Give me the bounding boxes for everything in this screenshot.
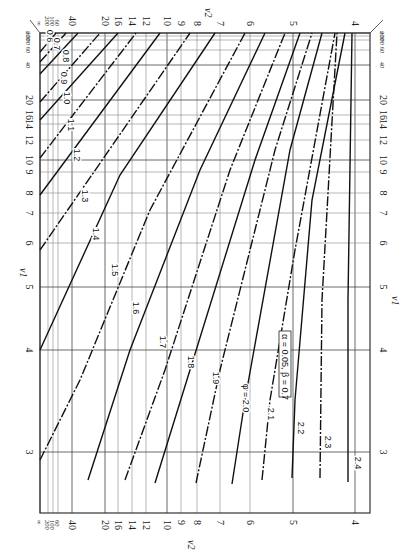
nu2-tick-label-bottom: 5	[288, 520, 299, 525]
curve-label: 1.6	[131, 302, 141, 315]
nu2-tick-label-top: 5	[288, 21, 299, 26]
nu1-tick-label-right: 9	[378, 170, 389, 175]
nu2-tick-label-bottom: ∞	[36, 520, 43, 525]
curve-label: 0.7	[52, 38, 62, 51]
nu1-tick-label-right: 5	[378, 285, 389, 290]
curve-label: φ = 2.0	[241, 384, 251, 413]
power-chart: 0.60.70.80.91.01.11.21.31.41.51.61.71.81…	[0, 0, 405, 558]
legend-annotation: α = 0.05, β = 0.7	[279, 331, 291, 400]
nu2-tick-label-top: 12	[141, 16, 152, 26]
nu2-tick-label-bottom: 10	[162, 520, 173, 530]
nu1-tick-label-left: 60	[25, 47, 32, 54]
nu2-tick-label-bottom: 60	[54, 520, 61, 527]
phi-curve	[155, 33, 300, 483]
nu1-tick-label-right: 14	[378, 119, 389, 129]
nu2-tick-label-top: 20	[100, 16, 111, 26]
nu1-tick-label-left: 100	[25, 35, 32, 45]
nu2-tick-label-bottom: 16	[113, 520, 124, 530]
nu1-tick-label-left: 10	[24, 155, 35, 165]
nu2-tick-label-top: 4	[350, 21, 361, 26]
nu1-tick-label-left: 12	[24, 135, 35, 145]
nu2-tick-label-bottom: 12	[141, 520, 152, 530]
nu2-tick-label-bottom: 8	[192, 520, 203, 525]
phi-curve	[40, 33, 136, 158]
nu2-tick-label-top: 10	[162, 16, 173, 26]
curve-label: 2.2	[296, 422, 306, 435]
nu2-tick-label-top: 6	[245, 21, 256, 26]
nu2-tick-label-top: 14	[127, 16, 138, 26]
nu1-axis-title-right: ν1	[390, 296, 401, 305]
nu1-tick-label-left: 8	[24, 191, 35, 196]
nu1-tick-label-left: 6	[24, 241, 35, 246]
curve-label: 2.4	[353, 457, 363, 470]
nu1-tick-label-left: 7	[24, 211, 35, 216]
nu1-tick-label-left: 3	[24, 450, 35, 455]
curve-label: 0.8	[61, 50, 71, 63]
nu1-tick-label-right: 10	[378, 155, 389, 165]
nu1-tick-label-right: 7	[378, 211, 389, 216]
curve-label: 1.9	[211, 372, 221, 385]
curve-label: 1.0	[62, 92, 72, 105]
curve-label: 1.2	[72, 149, 82, 162]
phi-curve	[232, 33, 322, 484]
nu2-tick-label-bottom: 4	[350, 520, 361, 525]
nu2-tick-label-top: ∞	[36, 21, 43, 26]
curve-label: 1.8	[186, 356, 196, 369]
nu1-tick-label-right: 12	[378, 135, 389, 145]
curve-label: 1.5	[110, 264, 120, 277]
nu2-axis-title-top: ν2	[203, 8, 214, 17]
curve-label: 2.3	[323, 436, 333, 449]
nu1-tick-label-left: 9	[24, 170, 35, 175]
nu2-tick-label-bottom: 20	[100, 520, 111, 530]
nu1-tick-label-left: 40	[25, 62, 32, 69]
nu1-tick-label-left: 20	[24, 95, 35, 105]
nu2-tick-label-bottom: 6	[245, 520, 256, 525]
nu2-tick-label-bottom: 40	[67, 520, 78, 530]
nu1-tick-label-right: 40	[379, 62, 386, 69]
curve-label: 1.1	[66, 119, 76, 132]
curve-label: 1.3	[80, 190, 90, 203]
nu1-tick-label-left: 4	[24, 348, 35, 353]
nu2-axis-title-bottom: ν2	[186, 540, 197, 549]
legend-text: α = 0.05, β = 0.7	[280, 334, 290, 400]
nu2-tick-label-bottom: 7	[215, 520, 226, 525]
nu1-axis-title-left: ν1	[18, 268, 29, 277]
nu2-tick-label-bottom: 14	[127, 520, 138, 530]
nu2-tick-label-top: 8	[192, 21, 203, 26]
curve-label: 1.4	[91, 228, 101, 241]
nu2-tick-label-top: 40	[67, 16, 78, 26]
nu1-tick-label-right: 3	[378, 450, 389, 455]
nu2-tick-label-top: 9	[176, 21, 187, 26]
nu2-tick-label-top: 16	[113, 16, 124, 26]
curve-label: 1.7	[158, 336, 168, 349]
nu2-tick-label-top: 60	[54, 20, 61, 27]
nu2-tick-label-bottom: 9	[176, 520, 187, 525]
nu1-tick-label-right: 8	[378, 191, 389, 196]
curve-label: 2.1	[266, 408, 276, 421]
nu1-tick-label-right: 100	[379, 35, 386, 45]
nu1-tick-label-right: 20	[378, 95, 389, 105]
curve-label: 0.9	[59, 72, 69, 85]
phi-curves: 0.60.70.80.91.01.11.21.31.41.51.61.71.81…	[40, 30, 363, 484]
nu2-tick-label-top: 7	[215, 21, 226, 26]
nu1-tick-label-left: 14	[24, 119, 35, 129]
nu1-tick-label-left: 5	[24, 285, 35, 290]
nu1-tick-label-right: 6	[378, 241, 389, 246]
nu1-tick-label-right: 4	[378, 348, 389, 353]
phi-curve	[40, 33, 190, 250]
nu1-tick-label-right: 60	[379, 47, 386, 54]
